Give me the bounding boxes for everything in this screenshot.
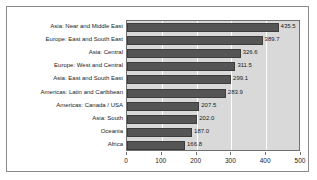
x-tick-label: 200 (190, 156, 201, 165)
bar-value-label: 202.0 (199, 114, 214, 123)
plot-area: 435.5389.7326.6311.5299.1283.9207.5202.0… (126, 20, 300, 151)
category-label: Asia: Central (89, 48, 123, 57)
x-axis: 0100200300400500 (126, 152, 300, 168)
bar-row: 166.8 (127, 139, 299, 152)
category-label: Asia: Near and Middle East (50, 22, 123, 31)
bar-row: 299.1 (127, 73, 299, 86)
category-label: Americas: Latin and Caribbean (41, 88, 123, 97)
bar[interactable] (127, 141, 185, 150)
bar-value-label: 283.9 (228, 88, 243, 97)
bar[interactable] (127, 102, 199, 111)
bar-value-label: 326.6 (243, 48, 258, 57)
bar-value-label: 389.7 (265, 35, 280, 44)
category-label: Europe: West and Central (54, 61, 123, 70)
bar[interactable] (127, 75, 231, 84)
bar[interactable] (127, 128, 192, 137)
x-tick-label: 0 (124, 156, 128, 165)
bar[interactable] (127, 49, 241, 58)
x-tick-mark (230, 152, 231, 155)
bar-row: 311.5 (127, 60, 299, 73)
bar-row: 207.5 (127, 100, 299, 113)
x-tick-mark (161, 152, 162, 155)
bar-row: 389.7 (127, 34, 299, 47)
bar-value-label: 299.1 (233, 74, 248, 83)
bar-value-label: 187.0 (194, 127, 209, 136)
category-label: Africa (108, 140, 123, 149)
x-tick-mark (126, 152, 127, 155)
category-label: Asia: South (92, 114, 123, 123)
bar[interactable] (127, 115, 197, 124)
bar[interactable] (127, 23, 279, 32)
bar-value-label: 435.5 (281, 22, 296, 31)
chart-frame: Asia: Near and Middle EastEurope: East a… (6, 6, 309, 172)
category-axis: Asia: Near and Middle EastEurope: East a… (15, 20, 123, 151)
bar-row: 283.9 (127, 87, 299, 100)
bar-value-label: 311.5 (237, 61, 252, 70)
x-tick-label: 100 (155, 156, 166, 165)
bar-row: 326.6 (127, 47, 299, 60)
category-label: Europe: East and South East (46, 35, 123, 44)
x-tick-mark (300, 152, 301, 155)
category-label: Americas: Canada / USA (56, 101, 123, 110)
bar-value-label: 207.5 (201, 101, 216, 110)
bar-row: 435.5 (127, 21, 299, 34)
bar[interactable] (127, 36, 263, 45)
x-tick-label: 500 (295, 156, 306, 165)
x-tick-label: 400 (260, 156, 271, 165)
bar-row: 187.0 (127, 126, 299, 139)
bar[interactable] (127, 89, 226, 98)
bar-row: 202.0 (127, 113, 299, 126)
bar[interactable] (127, 62, 235, 71)
gridline-500 (301, 21, 302, 150)
category-label: Asia: East and South East (53, 74, 123, 83)
x-tick-mark (196, 152, 197, 155)
category-label: Oceania (101, 127, 123, 136)
x-tick-label: 300 (225, 156, 236, 165)
x-tick-mark (265, 152, 266, 155)
bar-value-label: 166.8 (187, 140, 202, 149)
